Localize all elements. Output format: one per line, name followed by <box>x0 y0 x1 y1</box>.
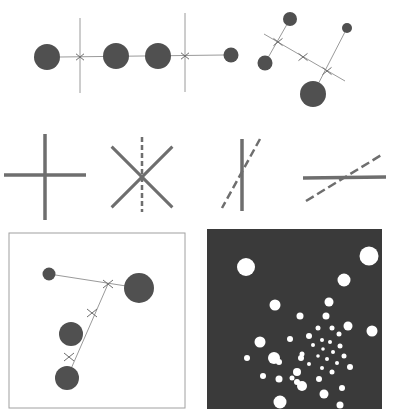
white-dot <box>321 347 325 351</box>
disc <box>43 268 56 281</box>
white-dot <box>268 352 280 364</box>
white-dot <box>360 247 379 266</box>
disc <box>300 81 326 107</box>
disc <box>342 23 352 33</box>
line-crossing-glyphs <box>4 134 386 220</box>
white-dot <box>316 376 322 382</box>
white-dot <box>297 313 304 320</box>
linear-disc-chain <box>34 13 239 93</box>
disc <box>283 12 297 26</box>
cross-marker-icon <box>323 67 332 74</box>
plus-glyph-icon <box>4 134 86 220</box>
cross-marker-icon <box>299 53 308 60</box>
disc <box>124 273 154 303</box>
disc <box>258 56 273 71</box>
white-dot <box>342 354 347 359</box>
white-dot <box>274 396 287 409</box>
disc <box>145 43 171 69</box>
white-dot <box>297 381 307 391</box>
white-dot <box>316 326 321 331</box>
vertical-with-dashed-diagonal-icon <box>222 139 260 211</box>
white-dot <box>337 402 344 409</box>
white-dot <box>287 336 293 342</box>
diagram-canvas <box>0 0 393 420</box>
white-dot <box>330 326 335 331</box>
white-dot <box>306 333 312 339</box>
white-dot <box>325 357 329 361</box>
white-dot <box>320 338 324 342</box>
white-dot <box>337 332 342 337</box>
white-dot <box>335 361 339 365</box>
disc <box>103 43 129 69</box>
white-dot <box>367 326 378 337</box>
white-dot <box>347 364 353 370</box>
white-dot <box>298 355 304 361</box>
disc <box>59 322 83 346</box>
white-dot <box>293 368 301 376</box>
white-dot <box>307 362 311 366</box>
white-dot <box>244 355 250 361</box>
white-dot <box>276 376 283 383</box>
white-dot <box>323 313 330 320</box>
white-dot <box>255 337 266 348</box>
white-dot <box>325 298 334 307</box>
panel-frame <box>9 233 185 408</box>
white-dot <box>344 322 353 331</box>
white-dot <box>320 390 329 399</box>
disc <box>224 48 239 63</box>
white-dot <box>270 300 281 311</box>
white-dot <box>339 385 345 391</box>
white-dot <box>237 258 255 276</box>
white-dot <box>260 373 266 379</box>
white-dot <box>338 274 351 287</box>
disc <box>34 44 60 70</box>
axis-line <box>60 55 224 57</box>
white-dot <box>320 366 324 370</box>
x-with-dashed-vertical-icon <box>112 137 173 212</box>
white-dot <box>330 370 335 375</box>
cross-marker-icon <box>64 353 74 361</box>
branched-disc-chain <box>258 12 353 107</box>
white-dot <box>316 354 320 358</box>
white-dot <box>290 376 295 381</box>
white-dot <box>328 340 332 344</box>
white-dot <box>311 343 315 347</box>
disc <box>55 366 79 390</box>
white-dot <box>338 344 343 349</box>
horizontal-with-dashed-diagonal-icon <box>303 154 386 201</box>
dark-spiral-dot-panel <box>207 229 382 409</box>
framed-disc-chain-panel <box>9 233 185 408</box>
white-dot <box>331 350 335 354</box>
